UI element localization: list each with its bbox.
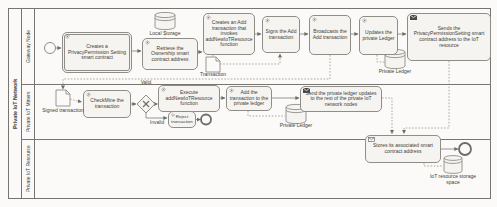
signed-transaction-label: Signed transaction bbox=[41, 108, 85, 114]
task-label: Creates an Add transaction that invokes … bbox=[206, 20, 253, 48]
task-sign-transaction: Signs the Add transaction bbox=[262, 16, 300, 53]
private-ledger-label-2: Private Ledger bbox=[271, 123, 321, 129]
task-checkmine-transaction: CheckMine the transaction bbox=[83, 90, 131, 118]
start-event bbox=[45, 43, 56, 54]
task-label: Add the transaction to the private ledge… bbox=[229, 90, 269, 107]
assoc-private-ledger-1 bbox=[377, 55, 385, 62]
task-reject-transaction: Reject transaction bbox=[168, 111, 196, 128]
task-create-add-transaction: Creates an Add transaction that invokes … bbox=[203, 13, 255, 55]
database-icon-iot-storage bbox=[444, 156, 462, 174]
lane-label-private-iot-miners: Private IoT Miners bbox=[21, 84, 34, 139]
lane-label-private-iot-resource: Private IoT Resource bbox=[21, 139, 34, 199]
document-icon-signed-transaction bbox=[56, 90, 70, 106]
task-execute-function: Execute addNewIoTResource function bbox=[158, 85, 220, 112]
msg-updates-to-resource bbox=[382, 98, 392, 134]
task-label: CheckMine the transaction bbox=[86, 98, 128, 109]
task-retrieve-ownership: Retrieve the Ownership smart contract ad… bbox=[142, 38, 198, 70]
task-create-privacy-contract: Creates a PrivacyPermission Setting smar… bbox=[62, 32, 132, 73]
local-storage-label: Local Storage bbox=[139, 31, 191, 37]
valid-flow-label: Valid bbox=[134, 80, 158, 85]
end-event-reject bbox=[201, 115, 211, 125]
assoc-transaction-out bbox=[220, 54, 280, 64]
invalid-flow bbox=[146, 113, 167, 118]
assoc-iot-storage bbox=[424, 163, 443, 166]
transaction-label: Transaction bbox=[191, 72, 235, 78]
task-label: Send the private ledger updates to the r… bbox=[303, 91, 379, 108]
task-add-transaction-ledger: Add the transaction to the private ledge… bbox=[226, 86, 272, 111]
task-label: Signs the Add transaction bbox=[265, 29, 297, 40]
task-label: Stores its associated smart contract add… bbox=[368, 143, 438, 154]
pool-label: Private IoT Network bbox=[8, 8, 21, 199]
task-label: Retrieve the Ownership smart contract ad… bbox=[145, 46, 195, 63]
task-send-contract-address: Sends the PrivacyPermissionSetting smart… bbox=[407, 13, 491, 61]
assoc-signed-tx bbox=[70, 99, 82, 102]
task-label: Broadcasts the Add transaction bbox=[312, 29, 348, 40]
lane-label-gateway-node: Gateway Node bbox=[21, 8, 34, 84]
task-send-ledger-updates: Send the private ledger updates to the r… bbox=[300, 86, 382, 112]
task-label: Sends the PrivacyPermissionSetting smart… bbox=[410, 26, 488, 48]
task-broadcast-transaction: Broadcasts the Add transaction bbox=[309, 15, 351, 55]
database-icon-local-storage bbox=[155, 12, 175, 29]
task-label: Execute addNewIoTResource function bbox=[161, 90, 217, 107]
task-store-contract-address: Stores its associated smart contract add… bbox=[365, 135, 441, 163]
invalid-flow-label: Invalid bbox=[144, 120, 170, 125]
bpmn-diagram: Private IoT Network Gateway Node Private… bbox=[0, 0, 497, 207]
iot-storage-label: IoT resource storage space bbox=[426, 174, 480, 185]
document-icon-transaction bbox=[206, 57, 220, 72]
task-label: Updates the private Ledger bbox=[362, 30, 395, 41]
end-event-resource bbox=[459, 143, 471, 155]
assoc-private-ledger-2 bbox=[248, 111, 285, 116]
private-ledger-label-1: Private Ledger bbox=[369, 69, 421, 75]
task-update-private-ledger: Updates the private Ledger bbox=[359, 16, 398, 55]
task-label: Creates a PrivacyPermission Setting smar… bbox=[65, 44, 129, 61]
exclusive-gateway-icon bbox=[137, 95, 155, 113]
